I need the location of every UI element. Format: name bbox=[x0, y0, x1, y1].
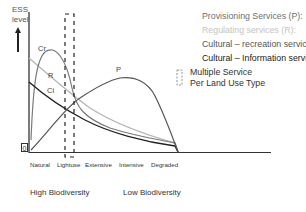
x-tick-extensive: Extensive bbox=[85, 162, 112, 168]
up-arrow-icon bbox=[15, 27, 21, 52]
high-biodiversity-label: High Biodiversity bbox=[30, 189, 90, 197]
legend-cultural-information: Cultural – Information services (Ci): bbox=[202, 54, 306, 63]
legend-dashed-box-icon bbox=[177, 70, 182, 85]
x-tick-intensive: Intensive bbox=[119, 162, 144, 168]
curve-label-ci: Ci bbox=[47, 87, 54, 95]
curve-label-cr: Cr bbox=[38, 45, 46, 53]
x-tick-natural: Natural bbox=[30, 162, 50, 168]
low-biodiversity-label: Low Biodiversity bbox=[123, 189, 181, 197]
legend-provisioning: Provisioning Services (P): bbox=[202, 12, 303, 21]
legend-multiple-service: Multiple Service bbox=[190, 68, 252, 77]
legend-cultural-recreation: Cultural – recreation services (Cr): bbox=[202, 40, 306, 49]
multiple-service-box bbox=[65, 14, 74, 157]
legend-regulating: Regulating services (R): bbox=[202, 26, 296, 35]
zero-label: 0 bbox=[21, 143, 28, 152]
curve-label-r: R bbox=[48, 72, 53, 80]
legend-per-land-use: Per Land Use Type bbox=[190, 79, 265, 88]
x-tick-degraded: Degraded bbox=[151, 162, 178, 168]
y-axis-title: ESS level bbox=[12, 5, 28, 25]
curve-label-p: P bbox=[116, 66, 121, 74]
x-tick-lightuse: Lightuse bbox=[57, 162, 80, 168]
